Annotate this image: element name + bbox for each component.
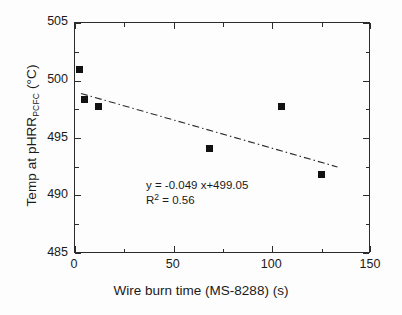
data-point — [206, 145, 213, 152]
x-tick-label: 0 — [51, 257, 97, 271]
x-tick-label: 150 — [347, 257, 393, 271]
fit-annotation: y = -0.049 x+499.05 R2 = 0.56 — [146, 178, 248, 208]
fit-r-squared: R2 = 0.56 — [146, 193, 248, 209]
y-tick-label: 490 — [26, 187, 68, 201]
trend-line — [75, 23, 371, 254]
data-point — [278, 103, 285, 110]
fit-equation: y = -0.049 x+499.05 — [146, 178, 248, 193]
x-tick-label: 50 — [150, 257, 196, 271]
chart-figure: Temp at pHRRPCFC (°C) Wire burn time (MS… — [0, 0, 402, 315]
data-point — [318, 171, 325, 178]
r-squared-value: = 0.56 — [159, 194, 195, 206]
x-axis-title: Wire burn time (MS-8288) (s) — [0, 283, 402, 298]
x-tick-label: 100 — [248, 257, 294, 271]
plot-area — [74, 22, 370, 253]
data-point — [95, 103, 102, 110]
y-tick-label: 495 — [26, 130, 68, 144]
y-axis-title-subscript: PCFC — [31, 93, 41, 117]
data-point — [76, 66, 83, 73]
y-tick-label: 500 — [26, 72, 68, 86]
r-squared-exponent: 2 — [154, 192, 159, 202]
y-tick-label: 505 — [26, 14, 68, 28]
data-point — [81, 96, 88, 103]
